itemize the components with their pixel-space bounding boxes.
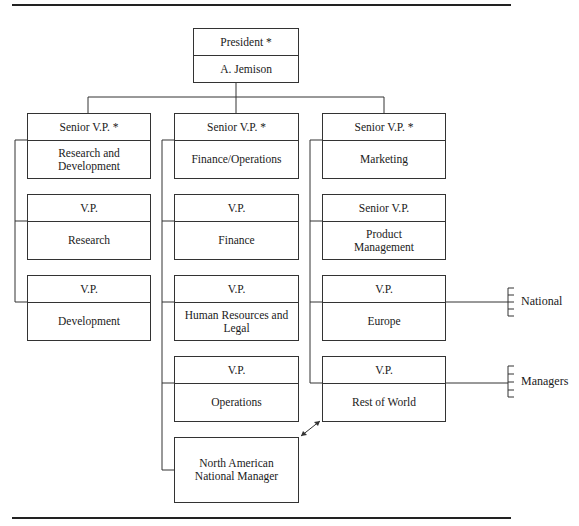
box-unit: Finance/Operations: [175, 141, 298, 178]
box-unit: North American National Manager: [175, 438, 298, 502]
box-title: V.P.: [175, 357, 298, 384]
box-vp-hr-legal: V.P. Human Resources and Legal: [174, 275, 299, 341]
label-national: National: [521, 294, 562, 309]
box-unit: Europe: [323, 303, 445, 340]
box-unit: Product Management: [323, 222, 445, 259]
box-title: V.P.: [323, 357, 445, 384]
box-unit: Rest of World: [323, 384, 445, 421]
box-unit: Finance: [175, 222, 298, 259]
box-unit: Research: [28, 222, 150, 259]
president-box: President * A. Jemison: [193, 28, 299, 83]
box-unit: Human Resources and Legal: [175, 303, 298, 340]
box-title: V.P.: [28, 276, 150, 303]
box-vp-europe: V.P. Europe: [322, 275, 446, 341]
box-unit: Research and Development: [28, 141, 150, 178]
box-title: Senior V.P. *: [175, 114, 298, 141]
president-name: A. Jemison: [194, 56, 298, 82]
box-title: Senior V.P. *: [323, 114, 445, 141]
box-senior-vp-finance-ops: Senior V.P. * Finance/Operations: [174, 113, 299, 179]
box-senior-vp-marketing: Senior V.P. * Marketing: [322, 113, 446, 179]
box-vp-operations: V.P. Operations: [174, 356, 299, 422]
box-title: Senior V.P.: [323, 195, 445, 222]
box-na-national-manager: North American National Manager: [174, 437, 299, 503]
box-vp-development: V.P. Development: [27, 275, 151, 341]
box-title: V.P.: [323, 276, 445, 303]
president-title: President *: [194, 29, 298, 56]
box-title: V.P.: [28, 195, 150, 222]
box-title: Senior V.P. *: [28, 114, 150, 141]
box-senior-vp-rd: Senior V.P. * Research and Development: [27, 113, 151, 179]
box-unit: Development: [28, 303, 150, 340]
box-title: V.P.: [175, 276, 298, 303]
box-senior-vp-product-mgmt: Senior V.P. Product Management: [322, 194, 446, 260]
box-vp-research: V.P. Research: [27, 194, 151, 260]
box-vp-finance: V.P. Finance: [174, 194, 299, 260]
box-title: V.P.: [175, 195, 298, 222]
box-unit: Operations: [175, 384, 298, 421]
box-vp-rest-of-world: V.P. Rest of World: [322, 356, 446, 422]
label-managers: Managers: [521, 374, 568, 389]
box-unit: Marketing: [323, 141, 445, 178]
